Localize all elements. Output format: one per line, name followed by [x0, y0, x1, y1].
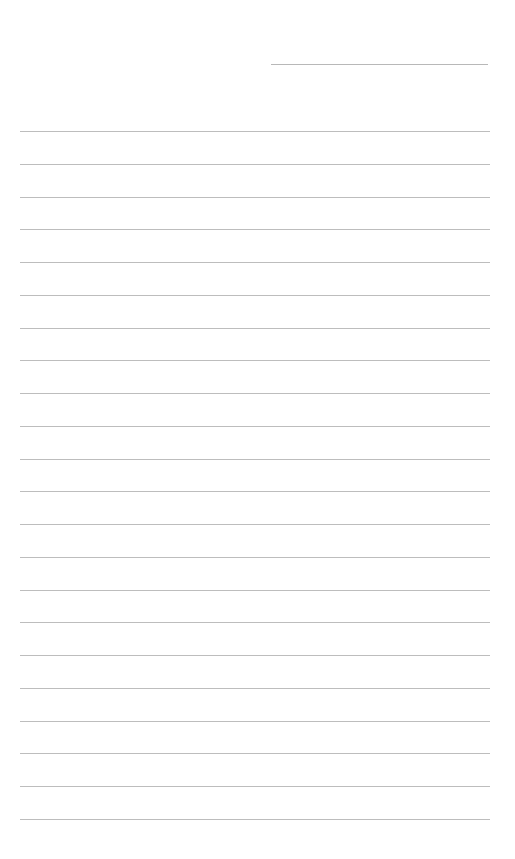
ruled-line — [20, 819, 490, 820]
ruled-line — [20, 557, 490, 558]
ruled-line — [20, 131, 490, 132]
ruled-line — [20, 229, 490, 230]
ruled-line — [20, 622, 490, 623]
ruled-line — [20, 721, 490, 722]
ruled-line — [20, 328, 490, 329]
ruled-line — [20, 262, 490, 263]
ruled-line — [20, 590, 490, 591]
ruled-line — [20, 786, 490, 787]
ruled-line — [20, 295, 490, 296]
ruled-line — [20, 360, 490, 361]
ruled-line — [20, 426, 490, 427]
short-header-line — [271, 64, 488, 65]
ruled-line — [20, 491, 490, 492]
ruled-line — [20, 655, 490, 656]
ruled-line — [20, 393, 490, 394]
ruled-line — [20, 524, 490, 525]
ruled-line — [20, 164, 490, 165]
ruled-line — [20, 753, 490, 754]
ruled-line — [20, 197, 490, 198]
ruled-line — [20, 459, 490, 460]
ruled-line — [20, 688, 490, 689]
